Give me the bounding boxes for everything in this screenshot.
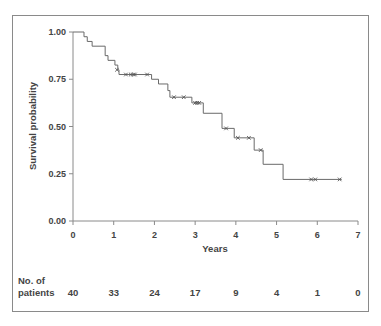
risk-count: 9 [233,287,238,298]
x-tick-label: 6 [315,230,320,240]
risk-count: 24 [149,287,160,298]
survival-chart: 0.000.250.500.751.0001234567 Survival pr… [0,0,381,326]
x-tick-label: 4 [233,230,238,240]
risk-table-label-line2: patients [18,287,54,298]
y-tick-label: 0.50 [48,122,66,132]
x-tick-label: 0 [70,230,75,240]
x-tick-label: 2 [152,230,157,240]
x-tick-label: 5 [274,230,279,240]
survival-curve [73,32,342,179]
risk-count: 1 [315,287,321,298]
risk-count: 33 [108,287,119,298]
risk-count: 0 [355,287,360,298]
x-axis-title: Years [202,243,227,254]
x-tick-label: 7 [355,230,360,240]
y-axis-title: Survival probability [27,81,38,170]
risk-table-label-line1: No. of [18,275,46,286]
y-tick-label: 1.00 [48,27,66,37]
x-tick-label: 1 [111,230,116,240]
y-tick-label: 0.00 [48,216,66,226]
risk-count: 40 [68,287,79,298]
risk-count: 17 [190,287,201,298]
y-tick-label: 0.75 [48,74,66,84]
x-tick-label: 3 [193,230,198,240]
risk-count: 4 [274,287,280,298]
y-tick-label: 0.25 [48,169,66,179]
